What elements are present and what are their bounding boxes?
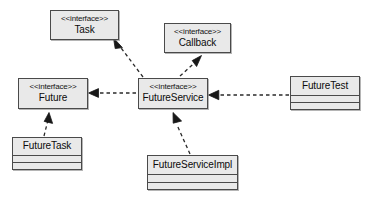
edge-futureservice-realizes-task (114, 38, 144, 77)
type-name-futureserviceimpl: FutureServiceImpl (153, 159, 232, 171)
attributes-compartment-futuretask (13, 155, 81, 162)
stereotype-label-futureservice: <<interface>> (150, 82, 197, 92)
edge-futureserviceimpl-realizes-futureservice (173, 113, 190, 155)
type-name-task: Task (74, 24, 94, 36)
stereotype-label-future: <<interface>> (30, 82, 77, 92)
operations-compartment-futuretask (13, 162, 81, 169)
stereotype-label-callback: <<interface>> (174, 27, 221, 37)
edge-futuretask-realizes-future (44, 113, 53, 137)
stereotype-label-task: <<interface>> (61, 14, 108, 24)
node-header-task: <<interface>> Task (51, 11, 118, 39)
type-name-callback: Callback (179, 37, 217, 49)
type-name-futuretask: FutureTask (23, 140, 71, 152)
class-node-task[interactable]: <<interface>> Task (50, 10, 119, 40)
attributes-compartment-futureserviceimpl (148, 174, 237, 182)
class-node-futuretest[interactable]: FutureTest (290, 76, 360, 110)
class-node-futureserviceimpl[interactable]: FutureServiceImpl (147, 155, 238, 190)
class-node-callback[interactable]: <<interface>> Callback (164, 23, 231, 53)
type-name-futuretest: FutureTest (302, 80, 348, 92)
edge-futuretest-depends-futureservice (209, 90, 290, 99)
edge-futureservice-depends-future (89, 89, 137, 98)
type-name-future: Future (39, 92, 67, 104)
node-header-future: <<interface>> Future (19, 79, 87, 108)
class-node-futuretask[interactable]: FutureTask (12, 137, 82, 170)
operations-compartment-futureserviceimpl (148, 182, 237, 190)
edge-futureservice-realizes-callback (180, 56, 202, 77)
attributes-compartment-futuretest (291, 95, 359, 102)
node-header-futureserviceimpl: FutureServiceImpl (148, 156, 237, 174)
node-header-futureservice: <<interface>> FutureService (139, 79, 207, 108)
node-header-futuretest: FutureTest (291, 77, 359, 95)
node-header-callback: <<interface>> Callback (165, 24, 230, 52)
class-node-futureservice[interactable]: <<interface>> FutureService (138, 78, 208, 109)
type-name-futureservice: FutureService (143, 92, 204, 104)
uml-class-diagram-canvas: <<interface>> Task <<interface>> Callbac… (0, 0, 365, 200)
node-header-futuretask: FutureTask (13, 138, 81, 155)
class-node-future[interactable]: <<interface>> Future (18, 78, 88, 109)
operations-compartment-futuretest (291, 102, 359, 109)
